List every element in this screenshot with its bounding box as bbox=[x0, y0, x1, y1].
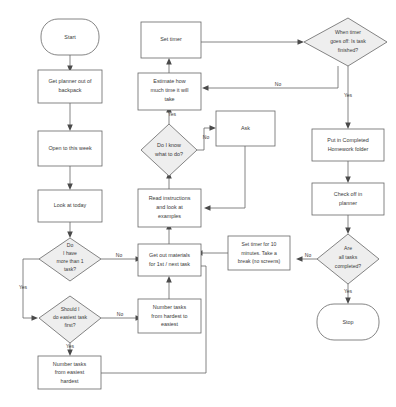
flowchart-svg: Get out materials --> No (left, down) Sh… bbox=[0, 0, 396, 407]
node-easiest-first[interactable]: Should I do easiest task first? bbox=[39, 296, 101, 343]
get-planner-shape bbox=[38, 70, 102, 103]
set-timer-shape bbox=[141, 22, 201, 58]
node-number-easiest[interactable]: Number tasks from easiest hardest bbox=[38, 356, 101, 389]
node-read-instructions[interactable]: Read instructions and look at examples bbox=[138, 189, 201, 227]
edge-label-know-what-yes: Yes bbox=[168, 111, 177, 117]
stop-shape bbox=[317, 304, 379, 340]
know-what-to-do-shape bbox=[141, 124, 197, 176]
arrowhead-stop bbox=[345, 298, 351, 305]
node-know-what-to-do[interactable]: Do I know what to do? bbox=[141, 124, 197, 176]
edge-label-know-what-no: No bbox=[203, 134, 210, 140]
edge-ask-to-read-instructions bbox=[208, 146, 245, 208]
ask-shape bbox=[216, 111, 275, 146]
edge-label-all-completed-no: No bbox=[305, 252, 312, 258]
more-than-one-shape bbox=[39, 238, 101, 281]
node-timer-goes-off[interactable]: When timer goes off: Is task finished? bbox=[304, 18, 387, 66]
node-all-completed[interactable]: Are all tasks completed? bbox=[317, 234, 379, 284]
edge-label-timer-goes-off-yes: Yes bbox=[344, 92, 353, 98]
node-look-today[interactable]: Look at today bbox=[38, 190, 102, 222]
edge-label-easiest-first-yes: Yes bbox=[66, 343, 75, 349]
edge-label-more-than-one-yes: Yes bbox=[19, 284, 28, 290]
arrowhead-easiest-first bbox=[32, 315, 39, 321]
arrowhead-read-instructions-from-ask bbox=[204, 205, 211, 211]
arrowhead-more-than-one bbox=[67, 232, 73, 239]
timer-goes-off-shape bbox=[304, 18, 387, 66]
node-start[interactable]: Start bbox=[41, 19, 99, 55]
arrowhead-timer-goes-off bbox=[298, 39, 305, 45]
number-hardest-shape bbox=[138, 299, 201, 333]
node-estimate-time[interactable]: Estimate how much time it will take bbox=[138, 73, 201, 110]
start-shape bbox=[41, 19, 99, 55]
arrowhead-look-today bbox=[67, 184, 73, 191]
arrowhead-all-completed bbox=[345, 228, 351, 235]
arrowhead-check-off bbox=[345, 177, 351, 184]
node-get-planner[interactable]: Get planner out of backpack bbox=[38, 70, 102, 103]
node-get-materials[interactable]: Get out materials for 1st / next task bbox=[138, 244, 201, 276]
node-put-completed[interactable]: Put in Completed Homework folder bbox=[312, 129, 384, 161]
node-check-off[interactable]: Check off in planner bbox=[312, 183, 384, 215]
arrowhead-set-timer bbox=[166, 58, 172, 65]
read-instructions-shape bbox=[138, 189, 201, 227]
node-ask[interactable]: Ask bbox=[216, 111, 275, 146]
easiest-first-shape bbox=[39, 296, 101, 343]
arrowhead-ask bbox=[210, 125, 217, 131]
edge-label-all-completed-yes: Yes bbox=[344, 288, 353, 294]
edge-label-easiest-first-no: No bbox=[117, 311, 124, 317]
node-stop[interactable]: Stop bbox=[317, 304, 379, 340]
edge-label-timer-goes-off-no: No bbox=[275, 81, 282, 87]
edge-label-more-than-one-no: No bbox=[116, 252, 123, 258]
arrowhead-open-week bbox=[67, 125, 73, 132]
arrowhead-break-timer bbox=[296, 256, 303, 262]
node-break-timer[interactable]: Set timer for 10 minutes. Take a break (… bbox=[228, 236, 290, 270]
break-timer-shape bbox=[228, 236, 290, 270]
get-materials-shape bbox=[138, 244, 201, 276]
put-completed-shape bbox=[312, 129, 384, 161]
arrowhead-get-materials-from-hardest bbox=[166, 276, 172, 283]
arrowhead-estimate-from-timer-no bbox=[202, 85, 209, 91]
look-today-shape bbox=[38, 190, 102, 222]
number-easiest-shape bbox=[38, 356, 101, 389]
estimate-time-shape bbox=[138, 73, 201, 110]
edge-timer-goes-off-no bbox=[206, 66, 338, 88]
arrowhead-put-completed bbox=[345, 123, 351, 130]
check-off-shape bbox=[312, 183, 384, 215]
node-open-week[interactable]: Open to this week bbox=[38, 131, 102, 166]
open-week-shape bbox=[38, 131, 102, 166]
node-number-hardest[interactable]: Number tasks from hardest to easiest bbox=[138, 299, 201, 333]
all-completed-shape bbox=[317, 234, 379, 284]
node-set-timer[interactable]: Set timer bbox=[141, 22, 201, 58]
node-more-than-one[interactable]: Do I have more than 1 task? bbox=[39, 238, 101, 281]
arrowhead-number-easiest bbox=[67, 350, 73, 357]
flowchart-canvas: Get out materials --> No (left, down) Sh… bbox=[0, 0, 396, 407]
